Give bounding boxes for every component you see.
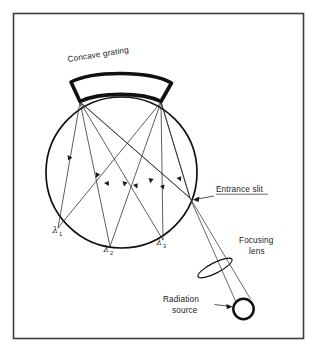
figure-canvas: Concave grating Entrance slit Focusing l… [0, 0, 318, 352]
label-radiation-source-line1: Radiation [163, 295, 199, 304]
label-focusing-lens-line2: lens [249, 247, 265, 256]
figure-border [14, 14, 304, 339]
lambda-3-subscript: 3 [163, 243, 166, 249]
lambda-1-subscript: 1 [59, 231, 62, 237]
radiation-source [233, 299, 253, 319]
concave-grating-spectrometer-diagram: Concave grating Entrance slit Focusing l… [0, 0, 318, 352]
lambda-2-symbol: λ [103, 244, 109, 254]
lambda-1-symbol: λ [52, 225, 58, 235]
lambda-3-symbol: λ [156, 237, 162, 247]
label-radiation-source-line2: source [172, 306, 198, 315]
label-focusing-lens-line1: Focusing [239, 236, 274, 245]
lambda-2-subscript: 2 [110, 250, 113, 256]
label-entrance-slit: Entrance slit [216, 185, 264, 194]
